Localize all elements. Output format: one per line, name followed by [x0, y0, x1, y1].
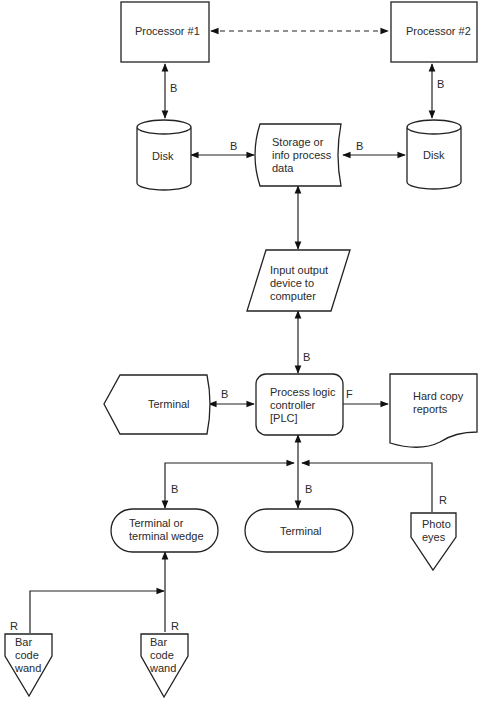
edge-bus-left — [165, 463, 294, 508]
node-terminal[interactable]: Terminal — [245, 509, 353, 552]
svg-text:Hard copy: Hard copy — [413, 390, 464, 402]
svg-text:Input output: Input output — [270, 264, 328, 276]
svg-text:Bar: Bar — [150, 636, 167, 648]
edge-label-r: R — [171, 620, 179, 632]
node-hard-copy[interactable]: Hard copy reports — [390, 374, 477, 447]
svg-text:Terminal: Terminal — [280, 525, 322, 537]
svg-text:Processor #1: Processor #1 — [135, 25, 200, 37]
node-disk1[interactable]: Disk — [137, 120, 191, 190]
svg-text:Terminal or: Terminal or — [129, 517, 184, 529]
svg-text:device to: device to — [270, 277, 314, 289]
svg-text:Terminal: Terminal — [148, 398, 190, 410]
svg-text:info process: info process — [272, 149, 332, 161]
edge-label-b: B — [305, 483, 312, 495]
svg-text:Disk: Disk — [152, 150, 174, 162]
svg-text:computer: computer — [270, 290, 316, 302]
svg-text:Process logic: Process logic — [270, 386, 336, 398]
node-bar-code-wand-1[interactable]: Bar code wand — [5, 634, 52, 696]
svg-text:code: code — [15, 649, 39, 661]
svg-text:controller: controller — [270, 399, 316, 411]
svg-text:data: data — [272, 162, 294, 174]
node-storage[interactable]: Storage or info process data — [255, 124, 341, 186]
edge-label-r: R — [10, 620, 18, 632]
node-photo-eyes[interactable]: Photo eyes — [411, 513, 456, 570]
svg-text:reports: reports — [413, 403, 448, 415]
svg-text:terminal wedge: terminal wedge — [129, 530, 204, 542]
node-processor1[interactable]: Processor #1 — [121, 2, 209, 62]
edge-label-b: B — [170, 82, 177, 94]
edge-wand1-wedge — [30, 591, 164, 633]
svg-text:Storage or: Storage or — [272, 136, 324, 148]
node-bar-code-wand-2[interactable]: Bar code wand — [141, 634, 188, 697]
edge-label-f: F — [346, 388, 353, 400]
edge-label-b: B — [230, 140, 237, 152]
node-terminal-wedge[interactable]: Terminal or terminal wedge — [111, 509, 218, 552]
svg-text:Disk: Disk — [423, 149, 445, 161]
edge-label-b: B — [221, 388, 228, 400]
svg-text:[PLC]: [PLC] — [270, 412, 298, 424]
svg-text:wand: wand — [14, 662, 41, 674]
svg-text:Photo: Photo — [422, 518, 451, 530]
svg-text:Processor #2: Processor #2 — [406, 25, 471, 37]
node-disk2[interactable]: Disk — [407, 120, 461, 189]
edge-label-b: B — [171, 483, 178, 495]
edge-label-b: B — [437, 78, 444, 90]
svg-text:Bar: Bar — [15, 636, 32, 648]
edge-label-b: B — [303, 351, 310, 363]
edge-bus-right — [302, 463, 432, 512]
edge-label-r: R — [439, 494, 447, 506]
svg-text:code: code — [150, 649, 174, 661]
svg-text:eyes: eyes — [422, 531, 446, 543]
svg-text:wand: wand — [149, 662, 176, 674]
node-processor2[interactable]: Processor #2 — [391, 2, 477, 62]
node-plc[interactable]: Process logic controller [PLC] — [256, 374, 343, 435]
node-io-device[interactable]: Input output device to computer — [247, 250, 350, 311]
node-terminal-display[interactable]: Terminal — [104, 375, 210, 434]
flowchart-canvas: B B B B B B F B B R R R Processor #1 Pro… — [0, 0, 478, 709]
edge-label-b: B — [356, 140, 363, 152]
